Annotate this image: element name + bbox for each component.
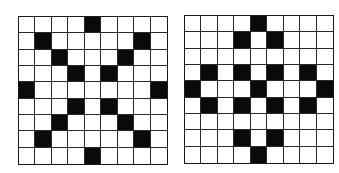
empty-cell — [85, 115, 101, 131]
filled-cell — [300, 98, 316, 114]
empty-cell — [201, 16, 217, 32]
empty-cell — [85, 50, 101, 66]
empty-cell — [151, 131, 167, 147]
filled-cell — [317, 81, 333, 97]
empty-cell — [101, 82, 117, 98]
empty-cell — [151, 50, 167, 66]
empty-cell — [68, 82, 84, 98]
empty-cell — [267, 81, 283, 97]
filled-cell — [267, 65, 283, 81]
empty-cell — [251, 114, 267, 130]
filled-cell — [134, 33, 150, 49]
empty-cell — [101, 148, 117, 164]
empty-cell — [185, 32, 201, 48]
empty-cell — [234, 114, 250, 130]
empty-cell — [251, 49, 267, 65]
filled-cell — [52, 50, 68, 66]
empty-cell — [300, 147, 316, 163]
empty-cell — [52, 148, 68, 164]
empty-cell — [284, 65, 300, 81]
empty-cell — [151, 17, 167, 33]
empty-cell — [151, 115, 167, 131]
empty-cell — [52, 131, 68, 147]
empty-cell — [218, 98, 234, 114]
empty-cell — [201, 130, 217, 146]
empty-cell — [300, 130, 316, 146]
filled-cell — [35, 33, 51, 49]
empty-cell — [35, 50, 51, 66]
filled-cell — [151, 82, 167, 98]
empty-cell — [317, 16, 333, 32]
filled-cell — [118, 50, 134, 66]
empty-cell — [218, 147, 234, 163]
empty-cell — [317, 65, 333, 81]
empty-cell — [52, 17, 68, 33]
empty-cell — [68, 33, 84, 49]
empty-cell — [52, 82, 68, 98]
empty-cell — [284, 98, 300, 114]
filled-cell — [101, 66, 117, 82]
empty-cell — [52, 33, 68, 49]
empty-cell — [85, 131, 101, 147]
empty-cell — [101, 33, 117, 49]
empty-cell — [251, 65, 267, 81]
empty-cell — [300, 32, 316, 48]
filled-cell — [52, 115, 68, 131]
empty-cell — [134, 17, 150, 33]
empty-cell — [218, 81, 234, 97]
empty-cell — [300, 16, 316, 32]
empty-cell — [284, 81, 300, 97]
empty-cell — [68, 17, 84, 33]
empty-cell — [317, 49, 333, 65]
empty-cell — [234, 147, 250, 163]
filled-cell — [267, 32, 283, 48]
empty-cell — [267, 114, 283, 130]
empty-cell — [101, 115, 117, 131]
empty-cell — [251, 98, 267, 114]
filled-cell — [68, 66, 84, 82]
empty-cell — [284, 114, 300, 130]
filled-cell — [267, 98, 283, 114]
empty-cell — [118, 66, 134, 82]
empty-cell — [19, 99, 35, 115]
empty-cell — [317, 130, 333, 146]
empty-cell — [68, 50, 84, 66]
empty-cell — [218, 16, 234, 32]
empty-cell — [134, 66, 150, 82]
empty-cell — [317, 98, 333, 114]
empty-cell — [19, 33, 35, 49]
empty-cell — [134, 50, 150, 66]
empty-cell — [118, 17, 134, 33]
filled-cell — [267, 130, 283, 146]
empty-cell — [201, 114, 217, 130]
empty-cell — [218, 114, 234, 130]
empty-cell — [52, 66, 68, 82]
filled-cell — [101, 99, 117, 115]
empty-cell — [218, 130, 234, 146]
empty-cell — [35, 66, 51, 82]
filled-cell — [251, 81, 267, 97]
filled-cell — [234, 98, 250, 114]
filled-cell — [234, 130, 250, 146]
empty-cell — [35, 82, 51, 98]
empty-cell — [317, 114, 333, 130]
filled-cell — [185, 81, 201, 97]
empty-cell — [201, 147, 217, 163]
filled-cell — [35, 131, 51, 147]
empty-cell — [134, 115, 150, 131]
empty-cell — [35, 115, 51, 131]
empty-cell — [201, 49, 217, 65]
empty-cell — [201, 32, 217, 48]
empty-cell — [317, 32, 333, 48]
empty-cell — [284, 16, 300, 32]
empty-cell — [284, 147, 300, 163]
empty-cell — [151, 33, 167, 49]
empty-cell — [218, 65, 234, 81]
empty-cell — [251, 32, 267, 48]
empty-cell — [35, 17, 51, 33]
empty-cell — [101, 50, 117, 66]
empty-cell — [234, 81, 250, 97]
empty-cell — [134, 99, 150, 115]
empty-cell — [234, 16, 250, 32]
empty-cell — [284, 130, 300, 146]
